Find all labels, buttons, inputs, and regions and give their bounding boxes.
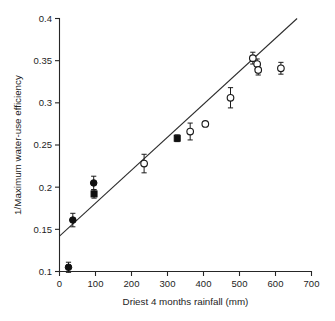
data-point-open-circle [250, 55, 257, 62]
data-point-open-circle [255, 67, 262, 74]
data-point-filled-circle [65, 264, 72, 271]
scatter-plot: 0.10.150.20.250.30.350.4 010020030040050… [0, 0, 335, 321]
x-tick-label: 500 [232, 278, 248, 289]
y-tick-label: 0.25 [34, 139, 53, 150]
regression-line [60, 19, 298, 237]
x-tick-label: 700 [304, 278, 320, 289]
data-point-open-circle [202, 121, 209, 128]
data-markers [65, 55, 284, 271]
data-point-open-circle [187, 128, 194, 135]
data-point-filled-square [174, 135, 180, 141]
data-point-filled-circle [70, 217, 77, 224]
figure-container: 0.10.150.20.250.30.350.4 010020030040050… [0, 0, 335, 321]
x-tick-label: 400 [196, 278, 212, 289]
y-tick-label: 0.4 [39, 13, 52, 24]
x-tick-label: 300 [160, 278, 176, 289]
x-tick-label: 0 [57, 278, 62, 289]
error-bars [66, 52, 284, 272]
y-tick-label: 0.1 [39, 266, 52, 277]
data-point-filled-square [91, 191, 97, 197]
data-point-open-circle [141, 160, 148, 167]
x-tick-label: 200 [124, 278, 140, 289]
x-axis-ticks: 0100200300400500600700 [57, 272, 320, 290]
data-point-filled-circle [90, 180, 97, 187]
x-tick-label: 100 [88, 278, 104, 289]
x-axis-title: Driest 4 months rainfall (mm) [123, 296, 249, 307]
data-point-open-circle [227, 94, 234, 101]
y-tick-label: 0.3 [39, 97, 52, 108]
y-axis-ticks: 0.10.150.20.250.30.350.4 [34, 13, 60, 277]
x-tick-label: 600 [268, 278, 284, 289]
y-tick-label: 0.35 [34, 55, 53, 66]
data-point-open-circle [278, 65, 285, 72]
y-axis-title: 1/Maximum water-use efficiency [12, 75, 23, 215]
y-tick-label: 0.15 [34, 224, 53, 235]
y-tick-label: 0.2 [39, 182, 52, 193]
